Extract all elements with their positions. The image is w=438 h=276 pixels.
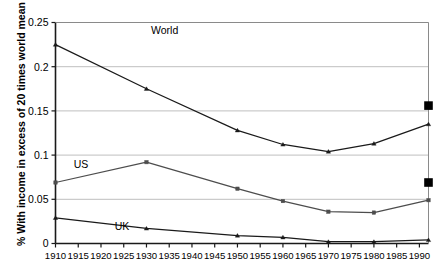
world-endpoint xyxy=(424,101,433,110)
gridlines xyxy=(56,23,429,200)
y-tick-label: 0.05 xyxy=(28,193,49,205)
x-tick-label: 1920 xyxy=(90,250,111,261)
series-label-uk: UK xyxy=(115,220,130,232)
series-line-world xyxy=(56,45,429,152)
x-tick-label: 1910 xyxy=(45,250,66,261)
x-tick-label: 1960 xyxy=(272,250,293,261)
x-tick-label: 1945 xyxy=(204,250,225,261)
axis-lines xyxy=(56,23,429,244)
data-point-marker xyxy=(236,187,239,190)
x-tick-label: 1925 xyxy=(113,250,134,261)
x-tick-label: 1955 xyxy=(250,250,271,261)
series-line-us xyxy=(56,162,429,212)
plot-area: 00.050.10.150.20.25 19101915192019251930… xyxy=(0,0,438,276)
y-tick-label: 0 xyxy=(43,237,49,249)
data-point-marker xyxy=(281,199,284,202)
x-tick-label: 1940 xyxy=(181,250,202,261)
data-point-marker xyxy=(53,43,57,47)
y-tick-label: 0.25 xyxy=(28,16,49,28)
x-axis-ticks: 1910191519201925193019351940194519501955… xyxy=(45,244,430,262)
x-tick-label: 1950 xyxy=(227,250,248,261)
data-point-marker xyxy=(327,210,330,213)
series-label-world: World xyxy=(151,24,178,36)
x-tick-label: 1930 xyxy=(136,250,157,261)
us-endpoint xyxy=(424,178,433,187)
data-point-marker xyxy=(427,198,430,201)
x-tick-label: 1915 xyxy=(68,250,89,261)
series-label-us: US xyxy=(74,158,89,170)
x-tick-label: 1935 xyxy=(159,250,180,261)
data-point-marker xyxy=(372,211,375,214)
data-point-marker xyxy=(54,181,57,184)
y-axis-ticks: 00.050.10.150.20.25 xyxy=(28,16,55,249)
x-tick-label: 1985 xyxy=(386,250,407,261)
y-tick-label: 0.2 xyxy=(34,61,49,73)
data-point-marker xyxy=(426,122,430,126)
x-tick-label: 1975 xyxy=(340,250,361,261)
y-tick-label: 0.15 xyxy=(28,105,49,117)
series-line-uk xyxy=(56,218,429,242)
y-tick-label: 0.1 xyxy=(34,149,49,161)
x-tick-label: 1965 xyxy=(295,250,316,261)
series-labels: WorldUSUK xyxy=(74,24,179,232)
x-tick-label: 1990 xyxy=(409,250,430,261)
x-tick-label: 1980 xyxy=(363,250,384,261)
chart-container: % With income in excess of 20 times worl… xyxy=(0,0,438,276)
x-tick-label: 1970 xyxy=(318,250,339,261)
data-point-marker xyxy=(145,160,148,163)
data-series xyxy=(53,43,430,244)
